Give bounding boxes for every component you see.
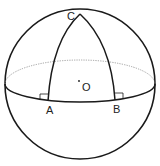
sphere-svg: C O A B — [0, 0, 160, 166]
label-o: O — [82, 81, 91, 93]
equator-front — [5, 84, 155, 102]
label-b: B — [113, 103, 120, 115]
sphere-outline — [5, 9, 155, 159]
label-a: A — [46, 104, 54, 116]
right-angle-marker-b — [115, 93, 123, 99]
label-c: C — [67, 10, 75, 22]
center-point-o — [78, 80, 80, 82]
equator-back-dotted — [5, 60, 155, 84]
sphere-diagram: C O A B — [0, 0, 160, 166]
arc-c-a — [48, 14, 80, 101]
